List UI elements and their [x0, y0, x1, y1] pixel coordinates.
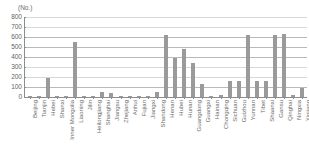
- x-tick-label: Chongqing: [223, 100, 229, 129]
- bar-slot: [216, 17, 225, 97]
- x-tick-label: Henan: [169, 100, 175, 118]
- x-tick-label: Jilin: [87, 100, 93, 110]
- bar: [191, 63, 195, 97]
- y-tick-mark: [24, 77, 26, 78]
- bar-slot: [271, 17, 280, 97]
- y-tick-label: 200: [11, 74, 22, 81]
- bar-chart: (No.) 8007006005004003002001000 BeijingT…: [0, 0, 309, 158]
- bar-slot: [243, 17, 252, 97]
- y-tick-mark: [24, 27, 26, 28]
- bar: [228, 81, 232, 97]
- bar: [255, 81, 259, 97]
- x-tick-mark: [293, 97, 294, 99]
- x-tick-mark: [84, 97, 85, 99]
- bar: [300, 88, 304, 98]
- bar-slot: [225, 17, 234, 97]
- x-tick-mark: [266, 97, 267, 99]
- y-tick-mark: [24, 57, 26, 58]
- x-tick-mark: [75, 97, 76, 99]
- x-tick-label: Guangdong: [196, 100, 202, 131]
- x-tick-mark: [221, 97, 222, 99]
- bar-slot: [298, 17, 307, 97]
- x-tick-label: Hebei: [50, 100, 56, 116]
- x-tick-label: Shanghai: [105, 100, 111, 125]
- x-tick-mark: [193, 97, 194, 99]
- x-tick-mark: [66, 97, 67, 99]
- bar-slot: [125, 17, 134, 97]
- bar-slot: [34, 17, 43, 97]
- y-tick-mark: [24, 97, 26, 98]
- y-tick-label: 800: [11, 14, 22, 21]
- x-tick-mark: [284, 97, 285, 99]
- bar-slot: [152, 17, 161, 97]
- bar-slot: [25, 17, 34, 97]
- bar-slot: [98, 17, 107, 97]
- x-tick-mark: [257, 97, 258, 99]
- x-tick-mark: [148, 97, 149, 99]
- x-tick-label: Jiangxi: [150, 100, 156, 119]
- x-tick-mark: [211, 97, 212, 99]
- bar-slot: [234, 17, 243, 97]
- bar-slot: [289, 17, 298, 97]
- x-tick-label: Tibet: [260, 100, 266, 113]
- x-tick-label: Shandong: [160, 100, 166, 127]
- bar: [182, 49, 186, 97]
- bar-slot: [180, 17, 189, 97]
- x-tick-label: Shaanxi: [269, 100, 275, 122]
- x-tick-mark: [139, 97, 140, 99]
- bar: [173, 58, 177, 97]
- y-tick-label: 0: [18, 94, 22, 101]
- x-tick-label: Heilongjiang: [96, 100, 102, 133]
- x-tick-mark: [202, 97, 203, 99]
- bar-slot: [171, 17, 180, 97]
- x-tick-mark: [157, 97, 158, 99]
- y-tick-label: 500: [11, 44, 22, 51]
- bar-slot: [198, 17, 207, 97]
- bar-slot: [143, 17, 152, 97]
- x-tick-mark: [57, 97, 58, 99]
- bar-slot: [134, 17, 143, 97]
- x-tick-label: Fujian: [141, 100, 147, 116]
- bar-slot: [89, 17, 98, 97]
- bar: [46, 78, 50, 98]
- bar-slot: [70, 17, 79, 97]
- y-tick-mark: [24, 87, 26, 88]
- x-tick-label: Shanxi: [59, 100, 65, 118]
- x-tick-mark: [239, 97, 240, 99]
- bar: [73, 42, 77, 97]
- x-tick-mark: [248, 97, 249, 99]
- x-tick-label: Hunan: [187, 100, 193, 118]
- x-tick-label: Hubei: [178, 100, 184, 116]
- bar: [273, 35, 277, 98]
- y-tick-label: 700: [11, 24, 22, 31]
- bar: [164, 35, 168, 98]
- y-tick-mark: [24, 47, 26, 48]
- x-tick-mark: [93, 97, 94, 99]
- bar: [200, 84, 204, 98]
- y-tick-label: 400: [11, 54, 22, 61]
- x-tick-label: Inner Mongolia: [69, 100, 75, 140]
- x-tick-label: Yunnan: [250, 100, 256, 120]
- x-tick-label: Tianjin: [41, 100, 47, 117]
- bar: [264, 81, 268, 97]
- x-tick-mark: [166, 97, 167, 99]
- x-tick-mark: [184, 97, 185, 99]
- bar-slot: [280, 17, 289, 97]
- x-tick-mark: [175, 97, 176, 99]
- x-tick-mark: [230, 97, 231, 99]
- x-tick-label: Guizhou: [241, 100, 247, 122]
- x-tick-label: Beijing: [32, 100, 38, 118]
- x-tick-label: Zhejiang: [123, 100, 129, 123]
- y-tick-label: 300: [11, 64, 22, 71]
- x-tick-mark: [39, 97, 40, 99]
- bar: [246, 35, 250, 98]
- x-tick-label: Jiangsu: [114, 100, 120, 121]
- bar-slot: [80, 17, 89, 97]
- x-tick-mark: [130, 97, 131, 99]
- y-tick-mark: [24, 67, 26, 68]
- x-tick-label: Qinghai: [287, 100, 293, 121]
- x-tick-label: Liaoning: [78, 100, 84, 123]
- y-tick-label: 600: [11, 34, 22, 41]
- y-tick-label: 100: [11, 84, 22, 91]
- bar-slot: [262, 17, 271, 97]
